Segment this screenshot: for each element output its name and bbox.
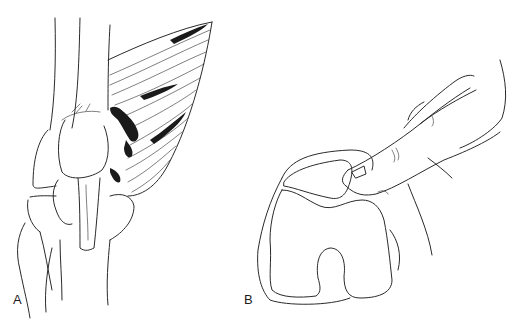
panel-a-illustration: A — [0, 0, 230, 320]
knee-muscle-tear-drawing — [0, 0, 230, 320]
panel-label-b: B — [244, 292, 253, 307]
panel-label-a: A — [13, 292, 22, 307]
patella-palpation-drawing — [230, 0, 524, 320]
panel-b-illustration: B — [230, 0, 524, 320]
